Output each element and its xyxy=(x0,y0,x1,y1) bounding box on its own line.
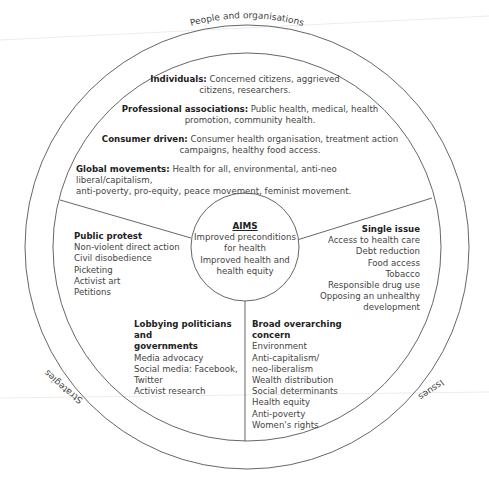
single-issue-title: Single issue xyxy=(300,224,420,235)
aims-line: Improved health and xyxy=(191,255,299,266)
list-item: Twitter xyxy=(134,375,244,386)
label-individuals: Individuals: xyxy=(150,74,207,84)
text-individuals-2: citizens, researchers. xyxy=(199,85,290,95)
list-item: Picketing xyxy=(74,265,194,276)
aims-block: AIMS Improved preconditions for health I… xyxy=(191,221,299,277)
broad-concern-block: Broad overarching concern Environment An… xyxy=(252,319,382,431)
list-item: Environment xyxy=(252,341,382,352)
list-item: Petitions xyxy=(74,287,194,298)
list-item: development xyxy=(300,302,420,313)
text-global-2: anti-poverty, pro-equity, peace movement… xyxy=(76,186,351,196)
ring-label-strategies: Strategies xyxy=(42,368,84,406)
list-item: Social determinants xyxy=(252,386,382,397)
list-item: Debt reduction xyxy=(300,246,420,257)
aims-line: Improved preconditions xyxy=(191,232,299,243)
aims-line: for health xyxy=(191,243,299,254)
aims-title: AIMS xyxy=(191,221,299,232)
list-item: Non-violent direct action xyxy=(74,242,194,253)
aims-line: health equity xyxy=(191,266,299,277)
list-item: Tobacco xyxy=(300,269,420,280)
list-item: Responsible drug use xyxy=(300,280,420,291)
people-professional: Professional associations: Public health… xyxy=(100,104,400,126)
single-issue-block: Single issue Access to health care Debt … xyxy=(300,224,420,314)
public-protest-block: Public protest Non-violent direct action… xyxy=(74,231,194,298)
label-consumer: Consumer driven: xyxy=(102,134,188,144)
list-item: Anti-poverty xyxy=(252,409,382,420)
text-consumer: Consumer health organisation, treatment … xyxy=(190,134,398,144)
list-item: Civil disobedience xyxy=(74,253,194,264)
list-item: Access to health care xyxy=(300,235,420,246)
broad-concern-title: Broad overarching concern xyxy=(252,319,382,341)
ring-label-issues: Issues xyxy=(416,378,445,402)
people-consumer: Consumer driven: Consumer health organis… xyxy=(100,134,400,156)
label-professional: Professional associations: xyxy=(122,104,248,114)
list-item: Food access xyxy=(300,258,420,269)
list-item: Women's rights xyxy=(252,420,382,431)
list-item: Activist research xyxy=(134,386,244,397)
people-individuals: Individuals: Concerned citizens, aggriev… xyxy=(120,74,370,96)
lobbying-title: Lobbying politicians and xyxy=(134,319,244,341)
text-professional-2: promotion, community health. xyxy=(185,115,316,125)
list-item: Social media: Facebook, xyxy=(134,364,244,375)
list-item: Opposing an unhealthy xyxy=(300,291,420,302)
people-global: Global movements: Health for all, enviro… xyxy=(76,164,406,198)
lobbying-block: Lobbying politicians and governments Med… xyxy=(134,319,244,397)
text-professional: Public health, medical, health xyxy=(251,104,378,114)
list-item: Wealth distribution xyxy=(252,375,382,386)
text-individuals: Concerned citizens, aggrieved xyxy=(209,74,339,84)
public-protest-title: Public protest xyxy=(74,231,194,242)
list-item: Media advocacy xyxy=(134,353,244,364)
list-item: Health equity xyxy=(252,397,382,408)
list-item: Anti-capitalism/ xyxy=(252,353,382,364)
list-item: Activist art xyxy=(74,276,194,287)
text-consumer-2: campaigns, healthy food access. xyxy=(180,145,321,155)
label-global: Global movements: xyxy=(76,164,170,174)
lobbying-title-2: governments xyxy=(134,341,244,352)
list-item: neo-liberalism xyxy=(252,364,382,375)
